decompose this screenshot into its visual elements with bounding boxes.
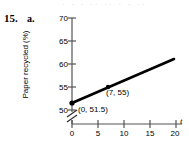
data-point-0-51-5 — [69, 100, 74, 105]
figure-container: · · · ·· ·· · · ·· 15. a. Paper recycled… — [0, 0, 189, 142]
data-point-7-55 — [106, 85, 110, 89]
trend-line — [72, 59, 174, 103]
plot-area — [0, 0, 189, 142]
